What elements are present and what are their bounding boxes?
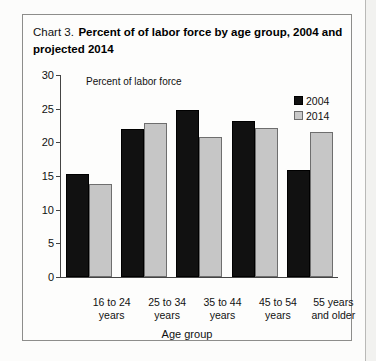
y-tick-mark xyxy=(56,75,60,76)
x-axis-category-line: 45 to 54 xyxy=(250,296,305,309)
y-tick-mark xyxy=(56,210,60,211)
bar-2004 xyxy=(121,129,144,277)
bar-group xyxy=(66,75,112,277)
bar-2004 xyxy=(232,121,255,277)
x-axis-category-label: 55 yearsand older xyxy=(306,296,361,322)
chart-title: Chart 3. Percent of of labor force by ag… xyxy=(33,23,343,57)
x-axis-title: Age group xyxy=(23,328,351,340)
y-tick-label: 15 xyxy=(42,170,54,182)
bar-2014 xyxy=(310,132,333,277)
y-tick-mark xyxy=(56,243,60,244)
bar-2004 xyxy=(66,174,89,277)
chart-title-prefix: Chart 3. xyxy=(33,26,74,38)
x-axis-category-line: 25 to 34 xyxy=(139,296,194,309)
x-axis-category-label: 25 to 34years xyxy=(139,296,194,322)
y-tick-mark xyxy=(56,277,60,278)
y-tick-label: 0 xyxy=(48,271,54,283)
x-axis-line xyxy=(60,277,338,278)
y-tick-label: 5 xyxy=(48,237,54,249)
x-axis-category-label: 16 to 24years xyxy=(84,296,139,322)
x-axis-category-line: years xyxy=(250,309,305,322)
bar-groups xyxy=(61,75,338,277)
y-tick-label: 30 xyxy=(42,69,54,81)
x-axis-category-label: 35 to 44years xyxy=(195,296,250,322)
x-axis-category-line: years xyxy=(84,309,139,322)
x-axis-category-line: 35 to 44 xyxy=(195,296,250,309)
bar-group xyxy=(176,75,222,277)
chart-title-text: Percent of of labor force by age group, … xyxy=(33,26,342,55)
y-tick-mark xyxy=(56,142,60,143)
bar-2014 xyxy=(255,128,278,277)
y-tick-label: 10 xyxy=(42,204,54,216)
bar-2014 xyxy=(89,184,112,277)
x-axis-category-line: 16 to 24 xyxy=(84,296,139,309)
x-axis-category-line: years xyxy=(139,309,194,322)
bar-group xyxy=(232,75,278,277)
bar-2004 xyxy=(287,170,310,277)
bar-group xyxy=(287,75,333,277)
bar-2014 xyxy=(144,123,167,277)
plot-area: 302520151050 xyxy=(60,75,338,277)
page-gutter-line xyxy=(365,0,366,361)
x-axis-category-line: years xyxy=(195,309,250,322)
bar-group xyxy=(121,75,167,277)
y-tick-label: 25 xyxy=(42,103,54,115)
x-axis-category-line: and older xyxy=(306,309,361,322)
page-gutter-shade xyxy=(366,0,376,361)
x-axis-category-labels: 16 to 24years25 to 34years35 to 44years4… xyxy=(84,296,361,322)
y-tick-mark xyxy=(56,176,60,177)
x-axis-category-label: 45 to 54years xyxy=(250,296,305,322)
y-tick-mark xyxy=(56,109,60,110)
bar-2014 xyxy=(199,137,222,277)
bar-2004 xyxy=(176,110,199,277)
y-tick-label: 20 xyxy=(42,136,54,148)
x-axis-category-line: 55 years xyxy=(306,296,361,309)
